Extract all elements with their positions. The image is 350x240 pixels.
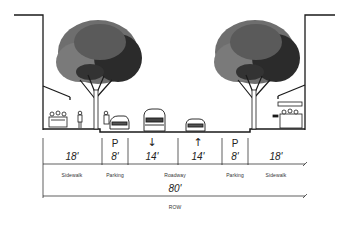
width-lane-right: 14' <box>191 151 204 162</box>
tree-right <box>214 20 300 129</box>
width-sidewalk-right: 18' <box>269 151 282 162</box>
parking-symbol-right: P <box>232 138 239 149</box>
width-sidewalk-left: 18' <box>65 151 78 162</box>
pedestrian-curb-left <box>104 111 109 124</box>
label-sidewalk-right: Sidewalk <box>266 172 287 178</box>
label-roadway: Roadway <box>164 172 186 178</box>
parking-symbol-left: P <box>112 138 119 149</box>
up-arrow-icon: ↑ <box>193 136 202 149</box>
width-parking-right: 8' <box>231 151 238 162</box>
pedestrian-left <box>78 111 82 128</box>
down-arrow-icon: ↓ <box>147 136 156 149</box>
label-sidewalk-left: Sidewalk <box>62 172 83 178</box>
width-lane-left: 14' <box>145 151 158 162</box>
cafe-seating-right <box>273 102 302 128</box>
car-lane-right <box>186 119 205 131</box>
car-lane-left <box>144 109 165 131</box>
ground-line <box>43 129 305 132</box>
parked-car-left <box>110 116 129 129</box>
label-parking-left: Parking <box>106 172 124 178</box>
total-width: 80' <box>168 183 181 194</box>
label-parking-right: Parking <box>226 172 244 178</box>
cafe-seating-left <box>49 111 67 127</box>
tree-left <box>56 20 142 129</box>
width-parking-left: 8' <box>111 151 118 162</box>
label-row: ROW <box>169 204 182 210</box>
